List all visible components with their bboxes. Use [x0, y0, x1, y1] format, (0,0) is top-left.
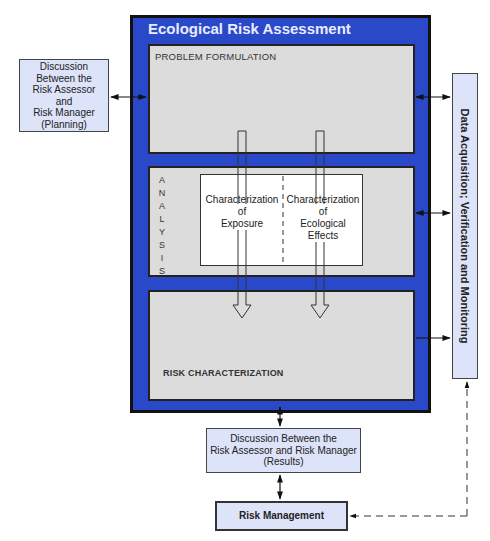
effects-flow-arrow [311, 131, 329, 318]
exposure-flow-arrow [233, 131, 251, 318]
connector-layer [0, 0, 490, 541]
